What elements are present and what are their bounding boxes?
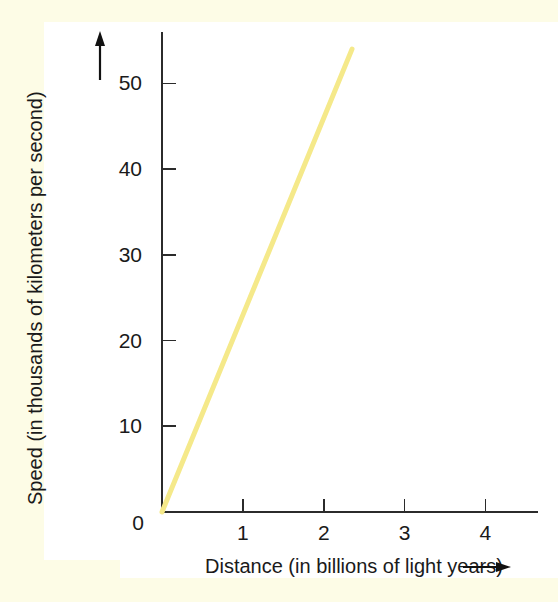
y-tick-label-0: 0 — [132, 511, 144, 534]
y-tick-label-10: 10 — [119, 414, 142, 437]
data-series-0 — [162, 49, 352, 512]
y-axis-arrow-icon — [95, 31, 105, 80]
chart-plot: Speed (in thousands of kilometers per se… — [0, 0, 558, 602]
x-tick-label-1: 1 — [237, 521, 249, 544]
x-axis-title-group: Distance (in billions of light years) — [205, 555, 511, 577]
y-tick-label-50: 50 — [119, 71, 142, 94]
y-axis-tick-labels: 01020304050 — [119, 71, 144, 534]
data-series-group — [162, 49, 352, 512]
x-axis-tick-labels: 1234 — [237, 521, 492, 544]
x-axis-ticks — [243, 499, 486, 512]
figure-container: Speed (in thousands of kilometers per se… — [0, 0, 558, 602]
y-tick-label-20: 20 — [119, 329, 142, 352]
x-tick-label-2: 2 — [318, 521, 330, 544]
y-tick-label-40: 40 — [119, 157, 142, 180]
x-tick-label-4: 4 — [480, 521, 492, 544]
axes — [162, 32, 538, 512]
x-tick-label-3: 3 — [399, 521, 411, 544]
y-axis-title-group: Speed (in thousands of kilometers per se… — [24, 31, 105, 505]
x-axis-title: Distance (in billions of light years) — [205, 555, 503, 577]
y-tick-label-30: 30 — [119, 243, 142, 266]
y-axis-ticks — [162, 83, 176, 426]
y-axis-title: Speed (in thousands of kilometers per se… — [24, 91, 46, 505]
